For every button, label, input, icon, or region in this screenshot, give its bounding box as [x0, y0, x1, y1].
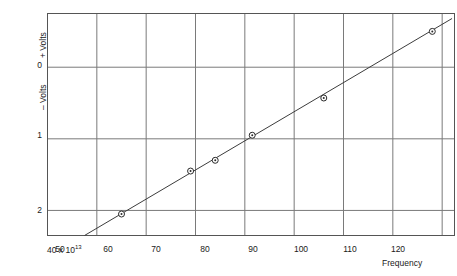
fit-line	[85, 19, 453, 236]
data-series	[85, 19, 453, 236]
data-point-center	[214, 159, 216, 161]
gridlines	[48, 14, 455, 236]
data-point-center	[431, 30, 433, 32]
data-point-center	[190, 170, 192, 172]
plot-frame	[48, 14, 455, 236]
chart-figure: + Volts – Volts 0 1 2 40 x 1013 50 60 70…	[0, 0, 457, 276]
plot-area	[0, 0, 457, 276]
data-point-center	[323, 97, 325, 99]
data-point-center	[251, 134, 253, 136]
data-point-center	[121, 213, 123, 215]
